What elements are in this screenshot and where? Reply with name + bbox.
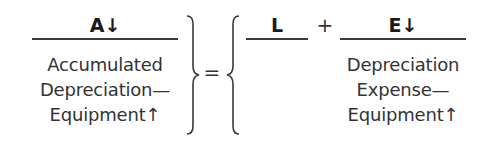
equals-sign: = (203, 60, 221, 84)
plus-sign: + (315, 13, 335, 37)
equity-line-3: Equipment↑ (330, 102, 476, 127)
assets-line-2: Depreciation— (22, 77, 188, 102)
assets-line-3: Equipment↑ (22, 102, 188, 127)
equity-underline (340, 38, 466, 40)
assets-underline (32, 38, 178, 40)
assets-header: A↓ (32, 14, 178, 36)
assets-line-1: Accumulated (22, 52, 188, 77)
liabilities-header: L (246, 14, 308, 36)
right-brace-icon (184, 14, 202, 136)
equity-line-1: Depreciation (330, 52, 476, 77)
equity-header: E↓ (340, 14, 466, 36)
left-brace-icon (224, 14, 242, 136)
assets-account: Accumulated Depreciation— Equipment↑ (22, 52, 188, 127)
liabilities-underline (246, 38, 308, 40)
equity-line-2: Expense— (330, 77, 476, 102)
equity-account: Depreciation Expense— Equipment↑ (330, 52, 476, 127)
